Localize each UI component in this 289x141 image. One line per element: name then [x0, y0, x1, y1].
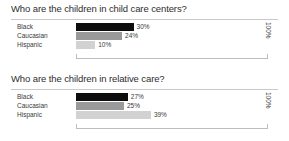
category-label: Hispanic — [17, 40, 75, 49]
axis-max-label: 100% — [265, 92, 272, 109]
bar-value-label: 10% — [95, 40, 111, 49]
title-divider — [11, 89, 278, 90]
bar-row: 27% — [76, 92, 268, 101]
chart-title: Who are the children in relative care? — [11, 73, 165, 84]
category-label: Caucasian — [17, 31, 75, 40]
x-axis — [76, 124, 268, 129]
bar-value-label: 30% — [134, 22, 150, 31]
bar — [76, 111, 151, 119]
axis-tick-start — [76, 54, 77, 59]
category-label-list: Black Caucasian Hispanic — [17, 22, 75, 49]
bar — [76, 93, 128, 101]
bar-row: 10% — [76, 40, 268, 49]
x-axis — [76, 54, 268, 59]
axis-tick-end — [267, 124, 268, 129]
bar — [76, 23, 134, 31]
bar — [76, 41, 95, 49]
bar-group: 27% 25% 39% — [76, 92, 268, 120]
chart-panel-child-care-centers: Who are the children in child care cente… — [0, 0, 289, 70]
axis-line — [76, 58, 268, 59]
title-divider — [11, 19, 278, 20]
category-label: Black — [17, 92, 75, 101]
bar-row: 30% — [76, 22, 268, 31]
bar — [76, 102, 124, 110]
bar-value-label: 27% — [128, 92, 144, 101]
bar-row: 25% — [76, 101, 268, 110]
bar-row: 39% — [76, 110, 268, 119]
plot-area: Black Caucasian Hispanic 30% 24% 10% — [0, 22, 289, 64]
category-label-list: Black Caucasian Hispanic — [17, 92, 75, 119]
axis-line — [76, 128, 268, 129]
bar-value-label: 24% — [122, 31, 138, 40]
axis-tick-end — [267, 54, 268, 59]
category-label: Caucasian — [17, 101, 75, 110]
chart-panel-relative-care: Who are the children in relative care? B… — [0, 70, 289, 141]
category-label: Hispanic — [17, 110, 75, 119]
axis-tick-start — [76, 124, 77, 129]
bar — [76, 32, 122, 40]
axis-max-label: 100% — [265, 22, 272, 39]
bar-value-label: 39% — [151, 110, 167, 119]
bar-group: 30% 24% 10% — [76, 22, 268, 50]
chart-title: Who are the children in child care cente… — [11, 3, 187, 14]
chart-page: Who are the children in child care cente… — [0, 0, 289, 141]
plot-area: Black Caucasian Hispanic 27% 25% 39% — [0, 92, 289, 134]
category-label: Black — [17, 22, 75, 31]
bar-value-label: 25% — [124, 101, 140, 110]
